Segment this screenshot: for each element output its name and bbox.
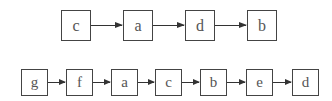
arrow-icon	[93, 82, 110, 83]
node-c: c	[61, 10, 91, 41]
node-b: b	[200, 69, 227, 96]
arrow-icon	[91, 25, 122, 26]
arrow-icon	[182, 82, 199, 83]
linked-list-diagram: c a d b g f a c b e d	[0, 0, 332, 101]
node-a: a	[123, 10, 153, 41]
arrow-icon	[215, 25, 246, 26]
node-d: d	[185, 10, 215, 41]
node-g: g	[21, 69, 48, 96]
node-a: a	[111, 69, 138, 96]
arrow-icon	[273, 82, 291, 83]
node-b: b	[247, 10, 277, 41]
node-f: f	[66, 69, 93, 96]
node-e: e	[246, 69, 273, 96]
arrow-icon	[48, 82, 65, 83]
node-c: c	[155, 69, 182, 96]
arrow-icon	[227, 82, 245, 83]
arrow-icon	[138, 82, 154, 83]
arrow-icon	[153, 25, 184, 26]
node-d: d	[292, 69, 319, 96]
